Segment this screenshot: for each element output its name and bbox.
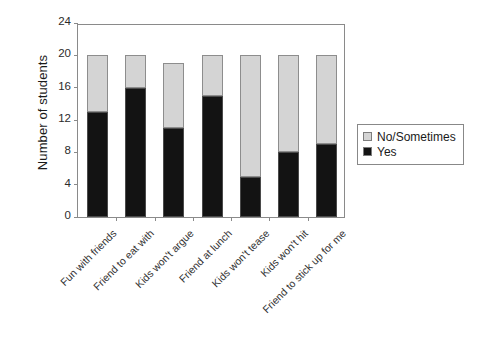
x-tick-mark [231,217,232,221]
y-axis-title: Number of students [35,23,50,203]
legend-swatch-icon [363,147,372,156]
chart-legend: No/SometimesYes [357,124,464,165]
bar-group[interactable] [278,23,299,217]
x-tick-mark [269,217,270,221]
bar-segment-no-sometimes[interactable] [202,55,223,95]
x-tick-mark [116,217,117,221]
y-tick-label: 4 [65,177,71,189]
y-tick-label: 20 [58,47,71,59]
bar-segment-no-sometimes[interactable] [278,55,299,152]
y-tick-label: 8 [65,144,71,156]
legend-label: Yes [377,145,397,159]
bar-segment-no-sometimes[interactable] [163,63,184,128]
plot-area: 04812162024 [77,24,345,218]
legend-item[interactable]: Yes [363,144,456,159]
bar-segment-yes[interactable] [125,88,146,217]
x-tick-mark [155,217,156,221]
bar-group[interactable] [87,23,108,217]
bar-segment-no-sometimes[interactable] [240,55,261,176]
bar-segment-no-sometimes[interactable] [125,55,146,87]
x-tick-mark [193,217,194,221]
legend-label: No/Sometimes [377,130,456,144]
y-tick-mark [74,23,78,24]
bar-segment-yes[interactable] [202,96,223,217]
bar-segment-no-sometimes[interactable] [87,55,108,112]
bar-segment-yes[interactable] [278,152,299,217]
bar-segment-yes[interactable] [316,144,337,217]
y-tick-label: 24 [58,15,71,27]
bar-group[interactable] [125,23,146,217]
bar-group[interactable] [316,23,337,217]
y-tick-label: 16 [58,80,71,92]
bar-group[interactable] [202,23,223,217]
stacked-bar-chart: Number of students 04812162024 Fun with … [0,0,485,340]
bar-segment-yes[interactable] [87,112,108,217]
bar-segment-yes[interactable] [163,128,184,217]
bar-segment-yes[interactable] [240,177,261,217]
bar-group[interactable] [163,23,184,217]
x-tick-mark [308,217,309,221]
bars-layer [78,25,344,217]
bar-group[interactable] [240,23,261,217]
y-tick-label: 12 [58,112,71,124]
bar-segment-no-sometimes[interactable] [316,55,337,144]
legend-swatch-icon [363,132,372,141]
legend-item[interactable]: No/Sometimes [363,129,456,144]
y-tick-label: 0 [65,209,71,221]
